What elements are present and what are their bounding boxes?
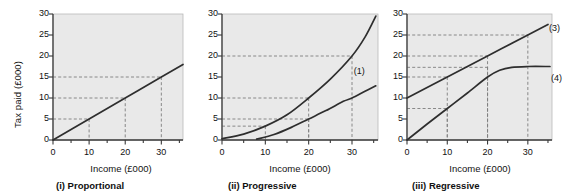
plot-frame	[222, 14, 378, 140]
x-tick-label: 0	[43, 147, 63, 157]
x-tick-label: 10	[255, 147, 275, 157]
plot-vector-proportional	[53, 14, 183, 140]
tax-systems-figure: Tax paid (£000) Income (£000) (i) Propor…	[0, 0, 568, 194]
x-tick-label: 20	[299, 147, 319, 157]
series-curve-1	[53, 64, 183, 140]
y-tick-label: 15	[29, 71, 49, 81]
y-tick-label: 25	[198, 29, 218, 39]
y-tick-label: 15	[198, 71, 218, 81]
y-tick-label: 0	[29, 134, 49, 144]
curve-label-3: (3)	[549, 23, 560, 33]
series-curve-2	[407, 66, 550, 140]
x-tick-label: 10	[437, 147, 457, 157]
y-tick-label: 10	[198, 92, 218, 102]
y-tick-label: 30	[383, 8, 403, 18]
y-axis-label: Tax paid (£000)	[12, 61, 23, 128]
x-tick-label: 30	[342, 147, 362, 157]
chart-svg-2	[222, 14, 378, 140]
curve-label-4: (4)	[551, 73, 562, 83]
y-tick-label: 25	[383, 29, 403, 39]
x-axis-label: Income (£000)	[58, 163, 184, 174]
y-tick-label: 5	[198, 113, 218, 123]
y-tick-label: 30	[29, 8, 49, 18]
plot-vector-progressive	[222, 14, 378, 140]
y-tick-label: 20	[198, 50, 218, 60]
y-tick-label: 30	[198, 8, 218, 18]
series-curve-1	[407, 25, 548, 99]
x-tick-label: 30	[518, 147, 538, 157]
y-tick-label: 15	[383, 71, 403, 81]
y-tick-label: 10	[29, 92, 49, 102]
curve-label-1: (1)	[354, 66, 365, 76]
x-tick-label: 20	[115, 147, 135, 157]
x-tick-label: 0	[212, 147, 232, 157]
x-tick-label: 30	[151, 147, 171, 157]
chart-svg-3	[407, 14, 552, 140]
panel-caption-proportional: (i) Proportional	[56, 180, 124, 191]
chart-svg-1	[53, 14, 183, 140]
plot-vector-regressive	[407, 14, 552, 140]
y-tick-label: 5	[29, 113, 49, 123]
x-tick-label: 10	[79, 147, 99, 157]
y-tick-label: 5	[383, 113, 403, 123]
y-tick-label: 0	[198, 134, 218, 144]
x-tick-label: 20	[478, 147, 498, 157]
x-axis-label: Income (£000)	[225, 163, 375, 174]
series-curve-2	[257, 86, 376, 139]
y-tick-label: 25	[29, 29, 49, 39]
x-axis-label: Income (£000)	[410, 163, 550, 174]
plot-area-regressive	[407, 14, 552, 140]
plot-area-proportional	[53, 14, 183, 140]
panel-caption-progressive: (ii) Progressive	[228, 180, 297, 191]
series-curve-1	[222, 16, 376, 139]
plot-area-progressive	[222, 14, 378, 140]
y-tick-label: 10	[383, 92, 403, 102]
y-tick-label: 20	[383, 50, 403, 60]
x-tick-label: 0	[397, 147, 417, 157]
y-tick-label: 0	[383, 134, 403, 144]
panel-caption-regressive: (iii) Regressive	[412, 180, 480, 191]
y-tick-label: 20	[29, 50, 49, 60]
